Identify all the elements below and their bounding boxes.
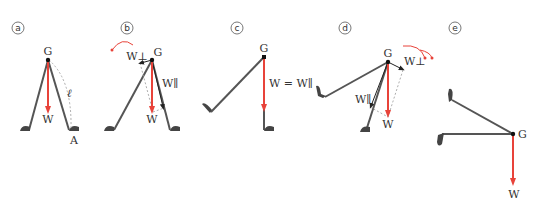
label-g: G [154, 46, 163, 59]
rotation-arrow [112, 41, 133, 50]
panel-c: c G W = W∥ [202, 22, 313, 131]
label-w: W [146, 113, 158, 126]
foot-swing-icon [202, 103, 212, 113]
panel-label-c: c [235, 23, 240, 33]
label-w-perp: W⊥ [404, 55, 426, 68]
foot-left-icon [104, 126, 114, 131]
label-w-perp: W⊥ [126, 50, 148, 63]
walking-dynamics-diagram: a G W ℓ A b G W⊥ W∥ W c [0, 0, 537, 209]
foot-stance-icon [360, 127, 370, 132]
foot-lower-icon [437, 133, 444, 146]
foot-right-icon [170, 126, 180, 131]
label-w: W [382, 118, 394, 131]
rotation-arrow-head [431, 57, 434, 60]
foot-stance-icon [264, 126, 274, 131]
label-w: W [42, 113, 54, 126]
foot-swing-icon [316, 86, 326, 98]
panel-e: e G W [420, 22, 527, 201]
label-length: ℓ [67, 87, 72, 100]
dashed-projection [388, 70, 403, 117]
dashed-projection [153, 108, 164, 112]
panel-label-a: a [15, 23, 21, 33]
label-g: G [44, 45, 53, 58]
parallel-component-arrow [371, 62, 388, 106]
panel-label-b: b [124, 23, 130, 33]
label-w: W [508, 188, 520, 201]
panel-label-d: d [342, 23, 348, 33]
panel-b: b G W⊥ W∥ W [104, 22, 180, 131]
leg-swing [211, 57, 264, 112]
center-of-mass-point [46, 58, 50, 62]
label-w-par: W∥ [355, 93, 371, 106]
leg-upper [452, 100, 513, 134]
center-of-mass-point [511, 132, 515, 136]
label-g: G [260, 42, 269, 55]
foot-right-icon [69, 126, 79, 131]
label-w-par: W∥ [162, 77, 178, 90]
perpendicular-component-arrow [388, 62, 402, 69]
label-equation: W = W∥ [269, 77, 313, 90]
panel-label-e: e [452, 23, 458, 33]
foot-upper-icon [448, 89, 453, 102]
panel-d: d G W⊥ W∥ W [316, 22, 427, 132]
center-of-mass-point [262, 55, 266, 59]
foot-left-icon [20, 126, 30, 131]
rotation-arrow-head [111, 49, 114, 52]
label-g: G [518, 128, 527, 141]
label-a: A [69, 134, 79, 147]
center-of-mass-point [386, 60, 390, 64]
panel-a: a G W ℓ A [12, 22, 79, 147]
label-g: G [384, 47, 393, 60]
